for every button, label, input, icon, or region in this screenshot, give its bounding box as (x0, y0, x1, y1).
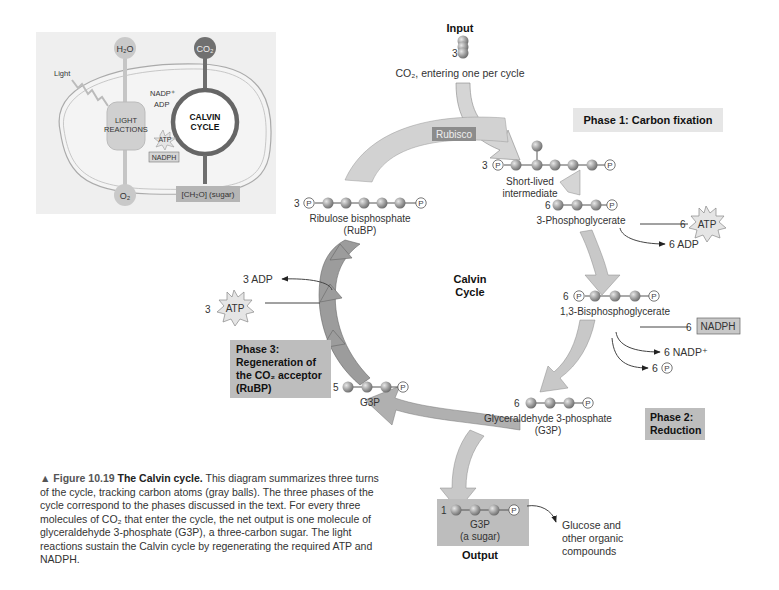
svg-text:6: 6 (545, 200, 551, 211)
inset-calvin-label-1: CALVIN (189, 112, 220, 122)
phase3-label-1: Phase 3: (236, 343, 279, 355)
svg-text:Ribulose bisphosphate: Ribulose bisphosphate (309, 213, 411, 224)
phase2-label-2: Reduction (650, 424, 701, 436)
nadph6-label: NADPH (700, 321, 735, 332)
light-reactions-label-1: LIGHT (115, 116, 138, 125)
adp-label: ADP (154, 100, 169, 109)
svg-text:G3P: G3P (470, 519, 490, 530)
center-label-1: Calvin (453, 273, 486, 285)
chloroplast-inset: H₂O O₂ LIGHT REACTIONS Light CO₂ CALVIN … (36, 32, 276, 214)
svg-text:3: 3 (294, 198, 300, 209)
input-group: Input 3 CO₂, entering one per cycle (396, 22, 525, 79)
phase3-label-2: Regeneration of (236, 356, 316, 368)
svg-text:6: 6 (563, 291, 569, 302)
glucose-label-3: compounds (562, 545, 616, 557)
light-label: Light (54, 69, 71, 78)
nadp-label: NADP⁺ (150, 89, 175, 98)
figure-body: This diagram summarizes three turns of t… (40, 472, 379, 565)
figure-caption: ▲ Figure 10.19 The Calvin cycle. This di… (40, 472, 390, 567)
input-label: CO₂, entering one per cycle (396, 67, 525, 79)
inset-atp-label: ATP (158, 136, 171, 143)
phase3-label-4: (RuBP) (236, 382, 272, 394)
svg-text:Short-lived: Short-lived (506, 176, 554, 187)
sugar-label: [CH₂O] (sugar) (182, 190, 235, 199)
light-reactions-label-2: REACTIONS (104, 125, 148, 134)
center-label-2: Cycle (455, 286, 484, 298)
svg-text:3-Phosphoglycerate: 3-Phosphoglycerate (537, 215, 626, 226)
rubisco-label: Rubisco (436, 129, 473, 140)
adp6-label: 6 ADP (669, 238, 699, 250)
figure-number: ▲ Figure 10.19 (40, 472, 115, 484)
svg-text:(RuBP): (RuBP) (344, 225, 377, 236)
pga-molecule: 6 3-Phosphoglycerate (537, 200, 626, 227)
inset-nadph-label: NADPH (152, 154, 177, 161)
atp6-count: 6 (680, 219, 686, 230)
phase3-label-3: the CO₂ acceptor (236, 369, 322, 381)
svg-text:6: 6 (514, 398, 520, 409)
atp3-label: ATP (226, 303, 245, 314)
figure-title: The Calvin cycle. (118, 472, 203, 484)
svg-text:G3P: G3P (360, 397, 380, 408)
phase1-label: Phase 1: Carbon fixation (584, 114, 713, 126)
glucose-label-2: other organic (562, 532, 623, 544)
svg-text:5: 5 (333, 382, 339, 393)
adp3-label: 3 ADP (243, 273, 273, 285)
input-count: 3 (452, 48, 458, 59)
pi6-count: 6 (652, 362, 658, 374)
svg-text:1: 1 (441, 505, 447, 516)
nadph6-count: 6 (686, 322, 692, 333)
svg-text:1,3-Bisphosphoglycerate: 1,3-Bisphosphoglycerate (560, 306, 671, 317)
h2o-label: H₂O (117, 44, 134, 54)
glucose-label-1: Glucose and (562, 519, 621, 531)
rubp-molecule: 3 Ribulose bisphosphate (RuBP) (294, 198, 426, 237)
atp6-label: ATP (698, 219, 717, 230)
phosphate-icon (662, 363, 672, 373)
atp3-count: 3 (205, 304, 211, 315)
input-title: Input (447, 22, 474, 34)
o2-label: O₂ (120, 191, 131, 201)
svg-text:3: 3 (482, 160, 488, 171)
svg-text:(a sugar): (a sugar) (460, 531, 500, 542)
inset-calvin-label-2: CYCLE (191, 122, 220, 132)
co2-label: CO₂ (197, 44, 215, 54)
bpg-molecule: 6 1,3-Bisphosphoglycerate (560, 291, 671, 318)
nadp6-label: 6 NADP⁺ (664, 346, 708, 358)
svg-text:Glyceraldehyde 3-phosphate: Glyceraldehyde 3-phosphate (484, 413, 612, 424)
svg-text:(G3P): (G3P) (535, 425, 562, 436)
g3p-molecule: 6 Glyceraldehyde 3-phosphate (G3P) (484, 398, 612, 437)
output-title: Output (462, 549, 498, 561)
phase2-label-1: Phase 2: (650, 411, 693, 423)
svg-text:intermediate: intermediate (502, 188, 557, 199)
